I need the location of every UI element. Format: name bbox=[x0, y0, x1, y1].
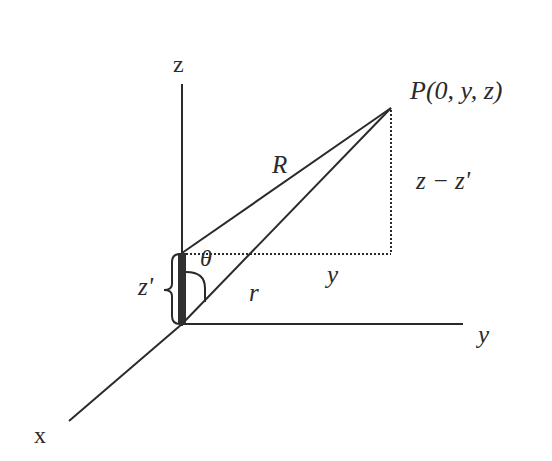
diagram-svg bbox=[0, 0, 552, 461]
theta-angle-arc bbox=[186, 272, 205, 302]
z-diff-label: z − z' bbox=[416, 168, 470, 193]
z-prime-label: z' bbox=[138, 274, 153, 299]
r-label: r bbox=[249, 280, 259, 305]
diagram-canvas: z y x P(0, y, z) R r y z − z' z' θ bbox=[0, 0, 552, 461]
z-prime-brace bbox=[164, 254, 180, 324]
y-axis-label: y bbox=[478, 322, 489, 347]
z-axis-label: z bbox=[173, 52, 184, 76]
theta-label: θ bbox=[200, 246, 212, 270]
R-line bbox=[182, 108, 391, 253]
source-bar bbox=[178, 253, 186, 324]
point-P-label: P(0, y, z) bbox=[410, 78, 502, 104]
r-line bbox=[182, 108, 391, 324]
x-axis-label: x bbox=[34, 423, 46, 447]
R-label: R bbox=[272, 152, 287, 177]
x-axis bbox=[69, 324, 182, 421]
y-segment-label: y bbox=[327, 262, 338, 287]
